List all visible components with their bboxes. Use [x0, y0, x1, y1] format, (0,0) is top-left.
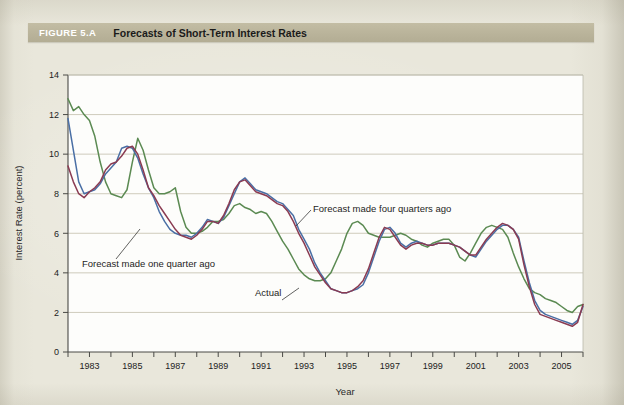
- y-tick-label: 2: [54, 308, 59, 318]
- x-tick-label: 1983: [79, 361, 99, 371]
- figure-number-label: FIGURE 5.A: [39, 27, 96, 38]
- annotation-label: Forecast made one quarter ago: [82, 258, 215, 269]
- y-tick-label: 0: [54, 347, 59, 357]
- x-tick-label: 2001: [466, 361, 486, 371]
- x-tick-label: 1991: [251, 361, 271, 371]
- y-tick-label: 12: [49, 110, 59, 120]
- x-axis-title: Year: [335, 386, 354, 397]
- x-tick-label: 1989: [208, 361, 228, 371]
- x-tick-label: 2003: [509, 361, 529, 371]
- x-tick-label: 1985: [122, 361, 142, 371]
- x-tick-label: 1999: [423, 361, 443, 371]
- annotation-label: Actual: [255, 287, 281, 298]
- y-axis-ticks: 02468101214: [49, 70, 68, 357]
- y-tick-label: 14: [49, 70, 59, 80]
- x-tick-label: 1993: [294, 361, 314, 371]
- figure-title-label: Forecasts of Short-Term Interest Rates: [113, 27, 307, 39]
- interest-rate-forecast-line-chart: 02468101214 1983198519871989199119931995…: [0, 55, 624, 405]
- x-tick-label: 1995: [337, 361, 357, 371]
- figure-header-banner: FIGURE 5.A Forecasts of Short-Term Inter…: [28, 23, 594, 42]
- y-axis-title: Interest Rate (percent): [13, 165, 24, 260]
- y-tick-label: 8: [54, 189, 59, 199]
- annotation-label: Forecast made four quarters ago: [313, 203, 451, 214]
- y-tick-label: 10: [49, 149, 59, 159]
- y-tick-label: 6: [54, 229, 59, 239]
- x-tick-label: 1997: [380, 361, 400, 371]
- chart-region: 02468101214 1983198519871989199119931995…: [0, 55, 624, 405]
- y-tick-label: 4: [54, 268, 59, 278]
- x-tick-label: 1987: [165, 361, 185, 371]
- x-tick-label: 2005: [552, 361, 572, 371]
- x-axis-ticks: 1983198519871989199119931995199719992001…: [68, 352, 583, 371]
